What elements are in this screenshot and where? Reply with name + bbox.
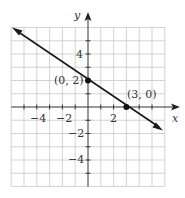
tick-label-y-neg4: −4 — [68, 153, 84, 166]
tick-label-x-neg4: −4 — [30, 112, 46, 125]
tick-label-y-neg2: −2 — [68, 127, 84, 140]
x-axis-label: x — [172, 112, 179, 125]
point-3-0 — [123, 104, 129, 110]
tick-label-x-2: 2 — [110, 112, 117, 125]
tick-label-x-neg2: −2 — [56, 112, 72, 125]
point-label-0-2: (0, 2) — [54, 74, 84, 87]
y-axis-label: y — [73, 9, 81, 22]
coordinate-plane: (0, 2) (3, 0) x y −4 −2 2 4 −2 −4 — [0, 0, 185, 198]
axes — [11, 16, 176, 187]
point-label-3-0: (3, 0) — [127, 88, 157, 101]
point-0-2 — [85, 78, 91, 84]
tick-label-y-4: 4 — [76, 48, 83, 61]
